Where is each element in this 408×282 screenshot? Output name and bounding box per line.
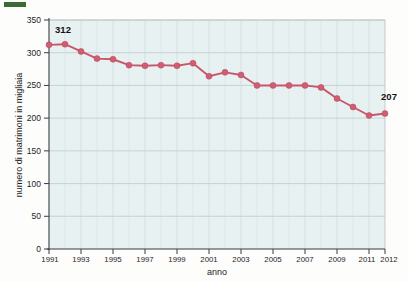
data-point	[366, 113, 372, 119]
x-tick-label: 2009	[328, 255, 345, 264]
x-tick-label: 1993	[72, 255, 89, 264]
y-axis-title: numero di matrimoni in migliaia	[14, 73, 24, 198]
data-point	[126, 62, 132, 68]
x-tick-label: 2012	[380, 255, 397, 264]
data-point	[254, 82, 260, 88]
data-point	[110, 56, 116, 62]
x-axis-title: anno	[207, 267, 227, 277]
data-point	[158, 62, 164, 68]
y-axis-tick-labels: 0 50 100 150 200 250 300 350	[27, 15, 41, 254]
value-label-end: 207	[381, 91, 397, 102]
data-point	[206, 73, 212, 79]
data-point	[350, 104, 356, 110]
data-point	[94, 56, 100, 62]
data-point	[78, 48, 84, 54]
x-tick-label: 2005	[264, 255, 282, 264]
plot-area-background	[49, 20, 385, 249]
data-point	[334, 96, 340, 102]
x-tick-label: 1997	[136, 255, 153, 264]
y-tick-label: 250	[27, 80, 41, 90]
x-tick-label: 1995	[104, 255, 122, 264]
x-tick-label: 2003	[232, 255, 249, 264]
data-point	[318, 84, 324, 90]
y-tick-label: 300	[27, 48, 41, 58]
y-tick-label: 200	[27, 113, 41, 123]
x-tick-label: 2011	[359, 255, 376, 264]
data-point	[222, 69, 228, 75]
data-point	[142, 63, 148, 69]
data-point	[238, 72, 244, 78]
line-chart-canvas: 0 50 100 150 200 250 300 350 1991	[0, 0, 408, 282]
y-tick-label: 350	[27, 15, 41, 25]
chart-figure: 0 50 100 150 200 250 300 350 1991	[0, 0, 408, 282]
x-tick-label: 1991	[41, 255, 58, 264]
data-point	[382, 111, 388, 117]
y-tick-label: 150	[27, 146, 41, 156]
x-axis-tick-labels: 1991 1993 1995 1997 1999 2001 2003 2005 …	[41, 255, 397, 264]
y-tick-label: 100	[27, 179, 41, 189]
data-point	[174, 63, 180, 69]
data-point	[302, 82, 308, 88]
data-point	[46, 42, 52, 48]
y-tick-label: 0	[36, 244, 41, 254]
data-point	[62, 41, 68, 47]
x-tick-label: 2007	[296, 255, 313, 264]
y-axis-ticks	[44, 20, 49, 249]
value-label-start: 312	[55, 24, 71, 35]
data-point	[270, 82, 276, 88]
data-point	[190, 60, 196, 66]
x-axis-ticks	[49, 249, 385, 254]
x-tick-label: 1999	[168, 255, 185, 264]
x-tick-label: 2001	[200, 255, 217, 264]
data-point	[286, 82, 292, 88]
y-tick-label: 50	[32, 211, 42, 221]
